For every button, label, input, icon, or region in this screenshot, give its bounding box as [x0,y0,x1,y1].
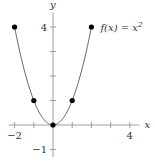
data-point [89,24,94,29]
data-point [70,98,75,103]
y-tick-label: 4 [41,22,47,33]
x-axis-label: x [144,119,150,130]
chart: x y f(x) = x2 −244−1 [0,0,155,163]
y-tick-label: −1 [32,144,47,155]
function-annotation: f(x) = x2 [99,21,143,33]
data-point [50,122,55,127]
x-tick-label: 4 [127,130,133,141]
x-tick-label: −2 [7,130,22,141]
labels: x y f(x) = x2 −244−1 [7,0,150,155]
y-axis-label: y [49,0,56,10]
data-point [31,98,36,103]
annotation-text: f(x) = x [99,22,138,33]
annotation-superscript: 2 [137,21,143,29]
data-point [12,24,17,29]
ticks [15,27,130,150]
